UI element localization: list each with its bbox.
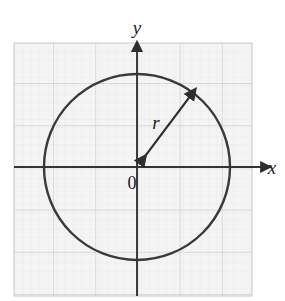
radius-label: r <box>152 112 160 133</box>
major-gridlines <box>14 43 252 296</box>
circle-coordinate-diagram: y x r 0 <box>0 0 285 301</box>
origin-label: 0 <box>128 173 137 193</box>
y-axis-label: y <box>131 17 142 38</box>
figure-root: y x r 0 <box>0 0 285 301</box>
x-axis-label: x <box>267 157 277 178</box>
